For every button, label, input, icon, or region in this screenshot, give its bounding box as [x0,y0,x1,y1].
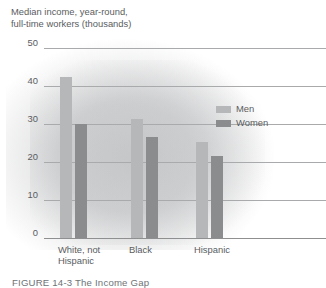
legend-item-men: Men [216,102,268,116]
gridline-40 [44,86,326,87]
legend-label-women: Women [236,118,268,127]
chart-legend: Men Women [216,102,268,130]
y-axis-tick-label: 10 [12,189,38,200]
bar-men-2 [196,142,208,238]
x-axis-category-label: Hispanic [194,244,230,255]
gridline-0 [44,238,326,239]
legend-label-men: Men [236,104,254,113]
bar-women-0 [75,124,87,238]
bar-women-2 [211,156,223,238]
bar-men-1 [131,119,143,238]
gridline-50 [44,48,326,49]
y-axis-tick-label: 30 [12,113,38,124]
bar-women-1 [146,137,158,238]
y-axis-tick-label: 50 [12,37,38,48]
y-axis-tick-label: 20 [12,151,38,162]
bar-men-0 [60,77,72,239]
x-axis-category-label: White, not Hispanic [58,244,100,267]
legend-swatch-women [216,120,231,127]
y-axis-tick-label: 0 [12,227,38,238]
x-axis-category-label: Black [129,244,152,255]
legend-item-women: Women [216,116,268,130]
figure-caption: FIGURE 14-3 The Income Gap [12,277,149,288]
legend-swatch-men [216,106,231,113]
y-axis-tick-label: 40 [12,75,38,86]
